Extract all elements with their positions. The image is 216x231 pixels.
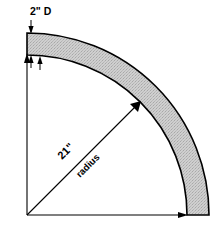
depth-label: 2" D [30, 5, 52, 17]
depth-lower-arrow-head-icon [28, 55, 33, 63]
radius-dimension-line [27, 105, 137, 215]
diagram-canvas: 2" D 21" radius [0, 0, 216, 231]
radius-value-label: 21" [55, 141, 76, 162]
bend-diagram-svg: 2" D 21" radius [0, 0, 216, 231]
radius-word-label: radius [74, 151, 102, 179]
depth-secondary-arrow-head-icon [37, 56, 42, 64]
